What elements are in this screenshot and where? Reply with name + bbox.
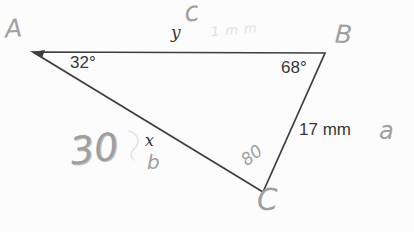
handwritten-side-b-letter: b	[147, 152, 160, 172]
faint-pencil-stroke	[129, 131, 138, 160]
vertex-c-label: C	[256, 185, 278, 216]
side-ab-label: y	[171, 24, 181, 41]
vertex-b-label: B	[334, 22, 352, 48]
side-bc-label: 17 mm	[299, 121, 351, 138]
side-ac-label: x	[145, 133, 154, 149]
angle-b-value: 68°	[281, 59, 307, 76]
handwritten-side-a-letter: a	[379, 119, 394, 143]
scanned-worksheet: A B C y x 17 mm 32° 68° c 1mm a b 30 80	[0, 0, 414, 232]
angle-a-value: 32°	[70, 54, 96, 71]
vertex-a-label: A	[4, 15, 23, 41]
handwritten-x-value: 30	[68, 127, 121, 171]
